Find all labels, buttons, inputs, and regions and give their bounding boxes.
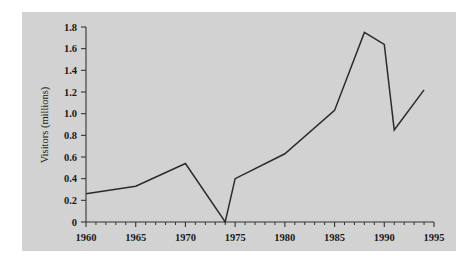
y-tick-label: 1.0 [64, 108, 77, 119]
y-tick-label: 0.2 [64, 195, 77, 206]
y-tick-label: 0 [72, 217, 77, 228]
line-chart: 00.20.40.60.81.01.21.41.61.8 19601965197… [0, 0, 472, 270]
y-tick-label: 0.4 [64, 173, 78, 184]
y-axis-ticks [81, 27, 86, 222]
x-axis-tick-labels: 19601965197019751980198519901995 [76, 232, 445, 243]
y-tick-label: 1.2 [64, 87, 77, 98]
y-tick-label: 1.4 [64, 65, 78, 76]
x-tick-label: 1960 [76, 232, 97, 243]
x-tick-label: 1965 [125, 232, 146, 243]
x-axis-ticks [86, 222, 434, 227]
y-tick-label: 0.8 [64, 130, 77, 141]
x-tick-label: 1980 [274, 232, 295, 243]
chart-figure: 00.20.40.60.81.01.21.41.61.8 19601965197… [0, 0, 472, 270]
data-series-line [86, 32, 424, 222]
x-tick-label: 1970 [175, 232, 196, 243]
y-axis-tick-labels: 00.20.40.60.81.01.21.41.61.8 [64, 22, 78, 228]
data-series-group [86, 32, 424, 222]
x-tick-label: 1995 [424, 232, 445, 243]
y-axis-title: Visitors (millions) [39, 86, 51, 163]
y-tick-label: 1.6 [64, 43, 77, 54]
y-tick-label: 1.8 [64, 22, 77, 33]
y-tick-label: 0.6 [64, 152, 77, 163]
x-tick-label: 1990 [374, 232, 395, 243]
x-tick-label: 1985 [324, 232, 345, 243]
x-tick-label: 1975 [225, 232, 246, 243]
